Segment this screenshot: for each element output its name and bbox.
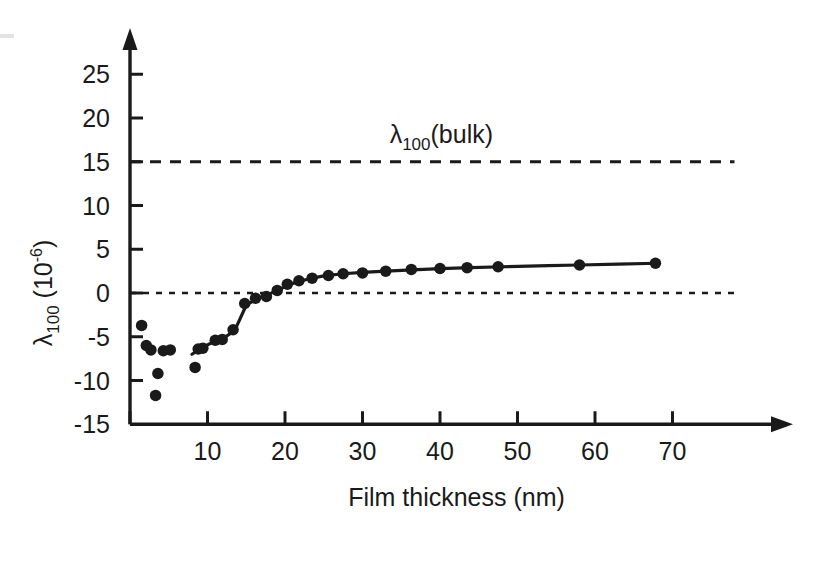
data-point [150, 390, 162, 402]
y-tick-label: 25 [82, 60, 110, 88]
data-point [239, 298, 251, 310]
tick-labels: -15-10-5051015202510203040506070 [74, 60, 687, 465]
y-tick-label: -5 [88, 323, 110, 351]
data-point [323, 270, 335, 282]
data-point [337, 268, 349, 280]
y-tick-label: 20 [82, 104, 110, 132]
data-point [136, 320, 148, 332]
x-tick-label: 50 [504, 437, 532, 465]
x-axis-arrow [771, 416, 793, 432]
data-point [145, 344, 157, 356]
annotations: λ100(bulk) [390, 120, 493, 154]
y-tick-label: -10 [74, 367, 110, 395]
x-axis-title: Film thickness (nm) [348, 483, 565, 511]
axes [123, 28, 794, 432]
data-point [261, 291, 273, 303]
x-tick-label: 70 [659, 437, 687, 465]
data-point [272, 285, 284, 297]
data-point [406, 264, 418, 276]
y-tick-label: 10 [82, 192, 110, 220]
data-point [250, 293, 261, 305]
y-tick-label: 0 [96, 279, 110, 307]
data-point [216, 334, 228, 346]
data-point [492, 261, 504, 273]
data-point [357, 267, 369, 279]
data-point [227, 324, 239, 336]
data-point [197, 342, 209, 354]
guide-curve [192, 263, 657, 354]
y-axis-title: λ100 (10-6) [28, 240, 63, 347]
data-point [282, 279, 294, 291]
y-tick-label: -15 [74, 410, 110, 438]
data-point [306, 272, 318, 284]
data-point [152, 368, 164, 380]
data-point [461, 262, 473, 274]
reference-lines [130, 162, 738, 293]
data-point [574, 259, 586, 271]
data-points [136, 258, 661, 402]
x-tick-label: 40 [426, 437, 454, 465]
data-point [293, 275, 305, 287]
y-axis-arrow [123, 28, 138, 50]
bulk-label: λ100(bulk) [390, 120, 493, 154]
figure-container: -15-10-5051015202510203040506070 λ100(bu… [0, 0, 819, 583]
x-tick-label: 60 [581, 437, 609, 465]
data-point [650, 258, 662, 270]
data-point [165, 344, 177, 356]
x-tick-label: 20 [271, 437, 299, 465]
x-tick-label: 10 [194, 437, 222, 465]
guide-curve-path [192, 263, 657, 354]
data-point [434, 263, 446, 275]
x-tick-label: 30 [349, 437, 377, 465]
data-point [189, 362, 201, 374]
y-tick-label: 5 [96, 235, 110, 263]
y-axis-title-text: λ100 (10-6) [28, 240, 63, 347]
y-tick-label: 15 [82, 148, 110, 176]
data-point [380, 265, 392, 277]
chart-canvas: -15-10-5051015202510203040506070 λ100(bu… [0, 0, 819, 583]
